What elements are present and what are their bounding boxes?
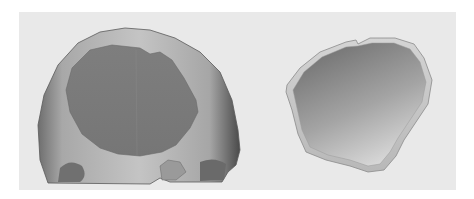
figure xyxy=(0,0,474,199)
figure-artwork xyxy=(0,0,474,199)
right-orbit-shadow xyxy=(200,159,226,181)
implant xyxy=(286,38,432,172)
skull xyxy=(38,28,240,184)
